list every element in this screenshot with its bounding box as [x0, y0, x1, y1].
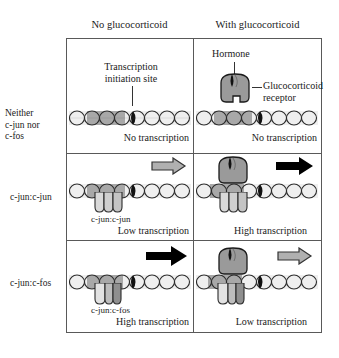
cell-c-jun-c-fos-no-glucocorticoid: c-jun:c-fos High transcription — [67, 241, 193, 332]
row-label-neither-line1: Neither — [5, 108, 40, 120]
cell-c-jun-c-fos-with-glucocorticoid: Low transcription — [194, 241, 321, 332]
dna-helix — [196, 269, 318, 295]
glucocorticoid-receptor-annotation: Glucocorticoid receptor — [263, 80, 323, 103]
transcription-initiation-site-annotation: Transcription initiation site — [91, 61, 171, 84]
row-label-neither: Neither c-jun nor c-fos — [5, 108, 40, 143]
dna-helix — [196, 178, 318, 204]
row-label-c-jun-c-jun: c-jun:c-jun — [10, 192, 52, 204]
row-label-neither-line2: c-jun nor — [5, 120, 40, 132]
row-label-c-jun-c-fos: c-jun:c-fos — [10, 278, 51, 290]
caption-high-transcription-r3c1: High transcription — [116, 316, 189, 327]
transcription-arrow-gray — [277, 247, 313, 265]
caption-no-transcription-r1c2: No transcription — [252, 132, 317, 143]
hormone-annotation: Hormone — [212, 48, 250, 60]
cell-c-jun-c-jun-no-glucocorticoid: c-jun:c-jun Low transcription — [67, 154, 193, 240]
glucocorticoid-receptor-icon — [218, 73, 252, 105]
transcription-regulation-figure: No glucocorticoid With glucocorticoid Ne… — [0, 0, 339, 358]
caption-low-transcription-r2c1: Low transcription — [118, 225, 189, 236]
receptor-label-line1: Glucocorticoid — [263, 80, 323, 92]
c-jun-c-jun-dimer — [93, 192, 125, 214]
transcription-initiation-site-line1: Transcription — [91, 61, 171, 73]
cell-neither-no-glucocorticoid: Transcription initiation site — [67, 39, 193, 153]
transcription-arrow-black — [145, 245, 189, 267]
row-label-neither-line3: c-fos — [5, 131, 40, 143]
caption-high-transcription-r2c2: High transcription — [234, 225, 307, 236]
transcription-arrow-gray — [151, 157, 187, 175]
cell-neither-with-glucocorticoid: Hormone Glucocorticoid receptor — [194, 39, 321, 153]
transcription-initiation-site-line2: initiation site — [91, 73, 171, 85]
dna-helix — [196, 105, 318, 131]
transcription-arrow-black — [275, 156, 315, 176]
complex-label-c-jun-c-fos: c-jun:c-fos — [91, 305, 130, 315]
caption-no-transcription-r1c1: No transcription — [124, 132, 189, 143]
dna-helix — [69, 105, 191, 131]
receptor-leader-line — [252, 87, 262, 88]
c-jun-c-fos-dimer — [93, 283, 125, 307]
column-header-no-glucocorticoid: No glucocorticoid — [66, 19, 193, 30]
transcription-initiation-site-leader-line — [132, 86, 133, 106]
column-header-with-glucocorticoid: With glucocorticoid — [193, 19, 322, 30]
dna-helix — [69, 269, 191, 295]
complex-label-c-jun-c-jun: c-jun:c-jun — [91, 214, 131, 224]
cell-c-jun-c-jun-with-glucocorticoid: High transcription — [194, 154, 321, 240]
c-jun-c-fos-dimer — [216, 283, 248, 307]
receptor-label-line2: receptor — [263, 92, 323, 104]
caption-low-transcription-r3c2: Low transcription — [236, 316, 307, 327]
c-jun-c-jun-dimer — [218, 192, 250, 214]
dna-helix — [69, 178, 191, 204]
